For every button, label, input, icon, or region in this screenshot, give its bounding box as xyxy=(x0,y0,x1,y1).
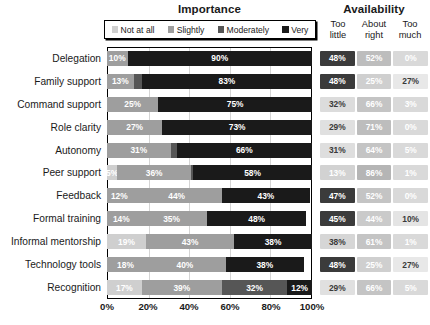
availability-column-header: Aboutright xyxy=(356,19,392,40)
bar-segment-value: 12% xyxy=(291,283,308,293)
stacked-bar: 27%73% xyxy=(107,120,312,135)
bar-segment-value: 35% xyxy=(163,214,180,224)
bar-segment: 12% xyxy=(287,280,312,295)
legend-label: Not at all xyxy=(121,25,155,35)
bar-segment-value: 36% xyxy=(146,168,163,178)
legend-label: Moderately xyxy=(227,25,270,35)
availability-cell: 10% xyxy=(393,211,428,226)
bar-segment: 32% xyxy=(222,280,288,295)
availability-row: 29%66%5% xyxy=(320,280,428,295)
stacked-bar: 19%43%38% xyxy=(107,234,312,249)
bar-segment-value: 39% xyxy=(173,283,190,293)
bar-segment: 43% xyxy=(222,188,310,203)
chart-row: Autonomy31%66%31%64%5% xyxy=(0,139,430,162)
bar-segment: 36% xyxy=(117,165,191,180)
chart-row: Technology tools18%40%38%48%25%27% xyxy=(0,253,430,276)
stacked-bar: 14%35%48% xyxy=(107,211,312,226)
chart-rows: Delegation10%90%48%52%0%Family support13… xyxy=(0,47,430,299)
bar-segment: 38% xyxy=(234,234,312,249)
bar-segment-value: 75% xyxy=(227,99,244,109)
category-label: Command support xyxy=(0,99,101,110)
header-line-1: About xyxy=(356,19,392,30)
bar-segment: 90% xyxy=(128,51,313,66)
availability-row: 48%52%0% xyxy=(320,51,428,66)
bar-segment-value: 17% xyxy=(116,283,133,293)
bar-segment-value: 83% xyxy=(219,76,236,86)
chart-row: Informal mentorship19%43%38%38%61%1% xyxy=(0,230,430,253)
category-label: Role clarity xyxy=(0,122,101,133)
bar-segment-value: 43% xyxy=(257,191,274,201)
legend-swatch-icon xyxy=(168,26,175,33)
availability-row: 13%86%1% xyxy=(320,165,428,180)
availability-cell: 25% xyxy=(357,74,392,89)
bar-segment: 35% xyxy=(136,211,208,226)
x-axis-tick-label: 0% xyxy=(100,301,114,312)
category-label: Family support xyxy=(0,76,101,87)
availability-cell: 3% xyxy=(393,97,428,112)
chart-legend: Not at allSlightlyModeratelyVery xyxy=(104,20,316,39)
header-line-2: right xyxy=(356,30,392,41)
bar-segment: 18% xyxy=(107,257,144,272)
availability-title: Availability xyxy=(320,3,428,15)
chart-row: Role clarity27%73%29%71%0% xyxy=(0,116,430,139)
bar-segment-value: 25% xyxy=(124,99,141,109)
chart-row: Family support13%83%48%25%27% xyxy=(0,70,430,93)
stacked-bar: 13%83% xyxy=(107,74,312,89)
category-label: Recognition xyxy=(0,282,101,293)
availability-row: 32%66%3% xyxy=(320,97,428,112)
bar-segment: 38% xyxy=(226,257,304,272)
availability-cell: 1% xyxy=(393,234,428,249)
bar-segment-value: 48% xyxy=(248,214,265,224)
availability-cell: 25% xyxy=(357,257,392,272)
availability-cell: 31% xyxy=(320,143,355,158)
bar-segment: 25% xyxy=(107,97,158,112)
bar-segment-value: 38% xyxy=(256,260,273,270)
legend-item: Very xyxy=(282,25,308,35)
stacked-bar: 12%44%43% xyxy=(107,188,312,203)
bar-segment: 58% xyxy=(193,165,312,180)
availability-cell: 86% xyxy=(357,165,392,180)
availability-cell: 61% xyxy=(357,234,392,249)
bar-segment-value: 66% xyxy=(236,145,253,155)
bar-segment-value: 10% xyxy=(109,53,126,63)
category-label: Informal mentorship xyxy=(0,236,101,247)
availability-cell: 13% xyxy=(320,165,355,180)
bar-segment: 10% xyxy=(107,51,128,66)
stacked-bar: 25%75% xyxy=(107,97,312,112)
bar-segment: 12% xyxy=(107,188,132,203)
x-axis-tick-label: 60% xyxy=(220,301,239,312)
availability-cell: 1% xyxy=(393,165,428,180)
chart-row: Delegation10%90%48%52%0% xyxy=(0,47,430,70)
legend-item: Slightly xyxy=(168,25,205,35)
legend-label: Very xyxy=(291,25,308,35)
chart-row: Recognition17%39%32%12%29%66%5% xyxy=(0,276,430,299)
bar-segment-value: 12% xyxy=(111,191,128,201)
availability-row: 31%64%5% xyxy=(320,143,428,158)
bar-segment-value: 19% xyxy=(118,237,135,247)
availability-cell: 52% xyxy=(357,188,392,203)
availability-column-headers: ToolittleAboutrightToomuch xyxy=(320,19,428,40)
availability-cell: 71% xyxy=(357,120,392,135)
availability-cell: 45% xyxy=(320,211,355,226)
availability-cell: 48% xyxy=(320,257,355,272)
bar-segment-value: 14% xyxy=(113,214,130,224)
legend-swatch-icon xyxy=(282,26,289,33)
legend-label: Slightly xyxy=(177,25,205,35)
availability-cell: 66% xyxy=(357,280,392,295)
legend-swatch-icon xyxy=(112,26,119,33)
header-line-2: much xyxy=(392,30,428,41)
availability-column-header: Toolittle xyxy=(320,19,356,40)
bar-segment: 73% xyxy=(162,120,312,135)
category-label: Delegation xyxy=(0,53,101,64)
availability-cell: 66% xyxy=(357,97,392,112)
bar-segment: 39% xyxy=(142,280,222,295)
availability-cell: 29% xyxy=(320,280,355,295)
stacked-bar: 5%36%58% xyxy=(107,165,312,180)
bar-segment-value: 13% xyxy=(112,76,129,86)
availability-cell: 0% xyxy=(393,188,428,203)
legend-swatch-icon xyxy=(218,26,225,33)
bar-segment: 5% xyxy=(107,165,117,180)
availability-row: 47%52%0% xyxy=(320,188,428,203)
x-axis-tick-label: 40% xyxy=(179,301,198,312)
category-label: Formal training xyxy=(0,213,101,224)
